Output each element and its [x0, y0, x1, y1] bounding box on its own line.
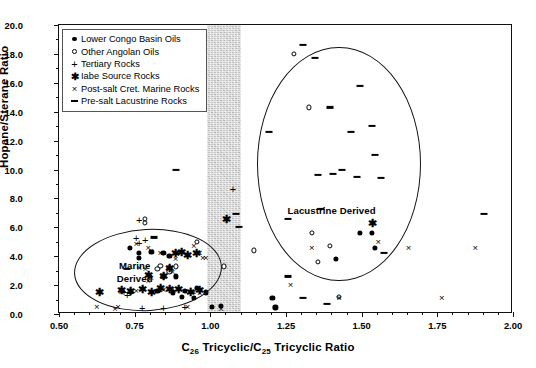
y-tick-label: 8.0: [0, 193, 23, 204]
x-tick-minor: [316, 312, 317, 315]
data-point: +: [230, 184, 236, 195]
x-tick-minor: [407, 312, 408, 315]
x-tick-label: 0.50: [50, 320, 68, 331]
data-point: [233, 213, 240, 215]
y-tick-label: 0.0: [0, 309, 23, 320]
ex-marker-icon: ×: [68, 83, 81, 95]
y-tick-minor: [56, 126, 59, 127]
y-tick: [54, 54, 59, 55]
x-tick-minor: [104, 312, 105, 315]
y-tick: [54, 198, 59, 199]
y-tick-label: 2.0: [0, 280, 23, 291]
y-tick-label: 14.0: [0, 106, 23, 117]
data-point: ×: [472, 243, 478, 253]
data-point: [299, 297, 306, 299]
legend-item-label: Pre-salt Lacustrine Rocks: [81, 96, 187, 106]
legend-item-label: Lower Congo Basin Oils: [81, 34, 181, 44]
y-tick-label: 12.0: [0, 135, 23, 146]
y-tick-label: 20.0: [0, 20, 23, 31]
x-tick: [59, 312, 60, 317]
data-point: [273, 305, 278, 310]
y-tick-label: 18.0: [0, 48, 23, 59]
y-tick: [54, 285, 59, 286]
x-tick-minor: [468, 312, 469, 315]
dash-marker-icon: [68, 95, 81, 107]
y-tick: [54, 25, 59, 26]
x-tick-minor: [392, 312, 393, 315]
plus-marker-icon: +: [68, 58, 81, 70]
legend-item: +Tertiary Rocks: [68, 58, 199, 70]
dot-marker-icon: [68, 33, 81, 45]
data-point: [481, 213, 488, 215]
x-tick: [286, 312, 287, 317]
data-point: ✱: [222, 213, 231, 224]
y-tick: [54, 256, 59, 257]
x-tick-minor: [301, 312, 302, 315]
legend-item-label: Iabe Source Rocks: [81, 71, 160, 81]
x-tick-minor: [347, 312, 348, 315]
y-tick-label: 6.0: [0, 222, 23, 233]
data-point: ×: [94, 303, 100, 312]
x-tick: [362, 312, 363, 317]
legend-item-label: Other Angolan Oils: [81, 47, 159, 57]
x-axis-title: C26 Tricyclic/C25 Tricyclic Ratio: [0, 341, 536, 356]
x-tick-minor: [483, 312, 484, 315]
data-point: [236, 226, 243, 228]
y-tick: [54, 83, 59, 84]
x-tick-minor: [195, 312, 196, 315]
y-tick-minor: [56, 300, 59, 301]
y-tick: [54, 141, 59, 142]
x-tick-label: 1.00: [201, 320, 219, 331]
y-tick-minor: [56, 68, 59, 69]
x-tick-minor: [331, 312, 332, 315]
y-tick: [54, 227, 59, 228]
x-tick-minor: [241, 312, 242, 315]
x-tick-label: 1.25: [277, 320, 295, 331]
y-tick-minor: [56, 242, 59, 243]
x-tick-minor: [422, 312, 423, 315]
x-tick-minor: [165, 312, 166, 315]
y-tick: [54, 170, 59, 171]
data-point: [221, 264, 226, 269]
data-point: ×: [288, 280, 294, 290]
data-point: [270, 296, 275, 301]
y-tick-minor: [56, 184, 59, 185]
y-tick: [54, 112, 59, 113]
y-tick-label: 16.0: [0, 77, 23, 88]
legend-item: ✱Iabe Source Rocks: [68, 70, 199, 82]
x-tick-minor: [271, 312, 272, 315]
x-tick-minor: [377, 312, 378, 315]
data-point: [291, 51, 296, 56]
legend-item: Lower Congo Basin Oils: [68, 33, 199, 45]
x-tick: [210, 312, 211, 317]
envelope-lacustrine-derived: [257, 47, 420, 281]
x-tick-minor: [498, 312, 499, 315]
legend-item: Other Angolan Oils: [68, 45, 199, 57]
x-tick: [513, 312, 514, 317]
data-point: [252, 248, 257, 253]
x-tick-minor: [256, 312, 257, 315]
chart-figure: Hopane/Sterane Ratio C26 Tricyclic/C25 T…: [0, 0, 536, 368]
y-tick-minor: [56, 97, 59, 98]
data-point: [323, 303, 330, 305]
y-tick-minor: [56, 271, 59, 272]
x-tick: [135, 312, 136, 317]
x-tick-minor: [74, 312, 75, 315]
legend-item-label: Post-salt Cret. Marine Rocks: [81, 84, 199, 94]
x-tick: [437, 312, 438, 317]
x-tick-minor: [89, 312, 90, 315]
data-point: [299, 44, 306, 46]
x-tick-label: 1.75: [428, 320, 446, 331]
legend: Lower Congo Basin OilsOther Angolan Oils…: [62, 29, 207, 112]
x-tick-minor: [225, 312, 226, 315]
legend-item: Pre-salt Lacustrine Rocks: [68, 95, 199, 107]
data-point: ×: [439, 293, 445, 303]
data-point: ×: [406, 243, 412, 253]
data-point: [284, 275, 291, 277]
legend-item: ×Post-salt Cret. Marine Rocks: [68, 83, 199, 95]
y-tick-minor: [56, 155, 59, 156]
annotation-lacustrine-derived: Lacustrine Derived: [288, 205, 376, 216]
data-point: [209, 304, 214, 309]
x-tick-minor: [452, 312, 453, 315]
data-point: +: [136, 214, 142, 225]
